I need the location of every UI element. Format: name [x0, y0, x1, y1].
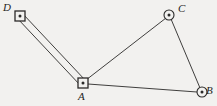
edge-A-B — [88, 84, 197, 92]
station-D-center-dot — [19, 15, 22, 18]
station-marker-A — [78, 78, 88, 88]
edge-D-A-line-2 — [23, 14, 86, 81]
edge-D-A-line-1 — [18, 19, 81, 86]
edge-D-A — [18, 14, 86, 86]
station-marker-C — [164, 10, 174, 20]
diagram-canvas — [0, 0, 217, 106]
edge-C-B — [171, 19, 200, 88]
station-label-D: D — [3, 2, 11, 13]
station-label-B: B — [206, 85, 213, 96]
edge-A-C — [86, 18, 166, 80]
station-label-C: C — [178, 3, 185, 14]
station-A-center-dot — [82, 82, 85, 85]
station-B-center-dot — [201, 91, 204, 94]
station-marker-D — [15, 11, 25, 21]
survey-diagram-figure: D A C B — [0, 0, 217, 106]
station-C-center-dot — [168, 14, 171, 17]
station-label-A: A — [78, 91, 85, 102]
